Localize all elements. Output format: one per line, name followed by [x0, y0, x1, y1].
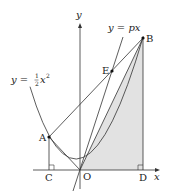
- point-e-marker: [110, 69, 113, 72]
- parabola-label-lhs: y =: [10, 74, 28, 85]
- y-axis-arrow-icon: [78, 23, 82, 28]
- point-a-marker: [47, 135, 50, 138]
- coordinate-diagram: y x O A B C D E y = px y = 1 2 x 2: [0, 0, 172, 194]
- parabola-label-exp: 2: [46, 72, 50, 79]
- point-e-label: E: [102, 65, 109, 76]
- parabola-label: y = 1 2 x 2: [10, 72, 50, 87]
- origin-label: O: [83, 171, 91, 182]
- point-d-label: D: [139, 172, 147, 183]
- x-axis-label: x: [154, 171, 160, 182]
- point-b-marker: [141, 36, 144, 39]
- point-b-label: B: [146, 33, 153, 44]
- y-axis-label: y: [75, 9, 82, 20]
- right-angle-c-icon: [49, 165, 54, 170]
- point-c-label: C: [45, 172, 53, 183]
- parabola-label-frac-num: 1: [35, 72, 39, 79]
- parabola-label-frac-den: 2: [35, 80, 39, 87]
- point-a-label: A: [38, 132, 47, 143]
- line-px-label: y = px: [107, 22, 141, 33]
